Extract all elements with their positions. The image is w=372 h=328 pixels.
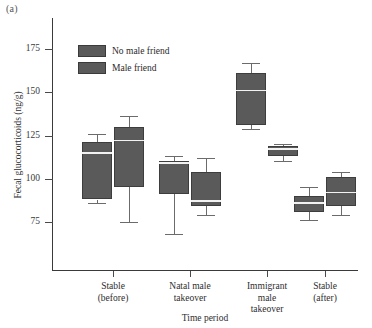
whisker-upper [309, 187, 310, 196]
y-tick-label: 75 [6, 217, 40, 227]
whisker-cap-upper [300, 187, 318, 188]
y-tick-label: 150 [6, 87, 40, 97]
boxplot-box [159, 161, 189, 194]
whisker-lower [129, 187, 130, 222]
whisker-cap-lower [120, 222, 138, 223]
legend-label-no-male-friend: No male friend [112, 46, 170, 56]
x-tick [267, 271, 268, 277]
x-tick [325, 271, 326, 277]
panel-label: (a) [6, 3, 18, 14]
whisker-cap-lower [197, 215, 215, 216]
boxplot-median [294, 202, 324, 204]
x-axis-title: Time period [52, 313, 358, 323]
whisker-cap-upper [165, 156, 183, 157]
y-axis-line [52, 18, 53, 271]
whisker-lower [309, 212, 310, 221]
whisker-upper [97, 134, 98, 143]
x-tick-label: Stable(after) [283, 281, 367, 304]
y-tick [45, 136, 53, 137]
whisker-cap-lower [88, 203, 106, 204]
x-tick-label: Natal maletakeover [148, 281, 232, 304]
x-tick-label: Stable(before) [71, 281, 155, 304]
boxplot-box [114, 127, 144, 188]
boxplot-median [326, 192, 356, 194]
whisker-cap-upper [197, 158, 215, 159]
boxplot-median [268, 148, 298, 150]
whisker-cap-lower [300, 220, 318, 221]
y-tick-label: 175 [6, 44, 40, 54]
legend-swatch-no-male-friend [78, 45, 106, 57]
whisker-upper [129, 116, 130, 126]
y-tick [45, 179, 53, 180]
y-axis-title: Fecal glucocorticoids (ng/g) [13, 50, 23, 240]
whisker-lower [206, 206, 207, 215]
whisker-upper [206, 158, 207, 172]
whisker-upper [251, 63, 252, 73]
legend-item-male-friend: Male friend [78, 61, 208, 75]
whisker-cap-lower [242, 129, 260, 130]
x-axis-line [52, 270, 358, 271]
x-tick [190, 271, 191, 277]
boxplot-box [294, 196, 324, 212]
legend-item-no-male-friend: No male friend [78, 44, 208, 58]
whisker-lower [174, 194, 175, 234]
y-tick [45, 222, 53, 223]
boxplot-median [236, 90, 266, 92]
y-tick-label: 125 [6, 131, 40, 141]
whisker-cap-upper [88, 134, 106, 135]
whisker-cap-upper [120, 116, 138, 117]
whisker-cap-lower [332, 215, 350, 216]
whisker-cap-upper [332, 172, 350, 173]
whisker-cap-lower [274, 161, 292, 162]
boxplot-box [236, 73, 266, 125]
whisker-cap-upper [242, 63, 260, 64]
boxplot-median [159, 162, 189, 164]
chart-legend: No male friend Male friend [78, 44, 208, 78]
figure-panel-a: (a) Fecal glucocorticoids (ng/g) Time pe… [0, 0, 372, 328]
legend-swatch-male-friend [78, 62, 106, 74]
boxplot-median [114, 140, 144, 142]
whisker-lower [341, 206, 342, 215]
y-tick [45, 49, 53, 50]
y-tick [45, 92, 53, 93]
whisker-cap-lower [165, 234, 183, 235]
y-tick-label: 100 [6, 174, 40, 184]
legend-label-male-friend: Male friend [112, 63, 157, 73]
x-tick [113, 271, 114, 277]
boxplot-median [82, 152, 112, 154]
boxplot-median [191, 200, 221, 202]
